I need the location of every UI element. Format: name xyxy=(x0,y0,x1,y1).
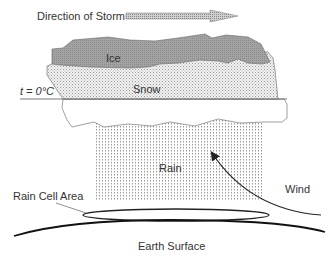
freezing-level-label: t = 0°C xyxy=(20,85,54,97)
snow-label: Snow xyxy=(133,83,161,95)
direction-label: Direction of Storm xyxy=(37,10,125,22)
wind-label: Wind xyxy=(285,183,310,195)
rain-cell-leader xyxy=(56,203,86,213)
rain-label: Rain xyxy=(159,162,182,174)
earth-surface-label: Earth Surface xyxy=(138,240,205,252)
storm-direction-arrow xyxy=(126,10,238,22)
rain-cell-label: Rain Cell Area xyxy=(13,190,84,202)
storm-diagram: Direction of Storm t = 0°C Ice Snow Rain… xyxy=(0,0,333,260)
rain-column xyxy=(94,120,264,200)
ice-label: Ice xyxy=(106,52,121,64)
earth-surface-line xyxy=(14,220,325,236)
